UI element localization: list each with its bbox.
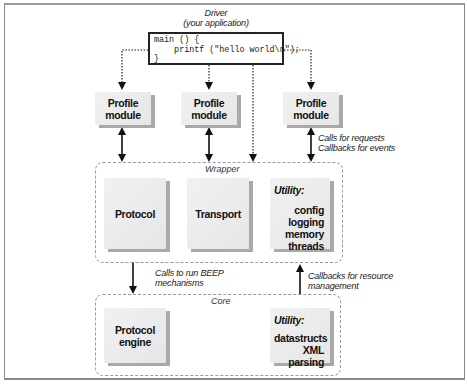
profile-module-1: Profile module [95, 92, 151, 125]
utility-title: Utility: [274, 184, 324, 196]
driver-title-line1: Driver [156, 8, 276, 18]
profile-module-2: Profile module [181, 92, 237, 125]
utility-item: threads [274, 240, 324, 252]
core-label: Core [211, 296, 231, 306]
profile-module-3: Profile module [283, 92, 339, 125]
utility-item: logging [274, 216, 324, 228]
annotation-requests-events: Calls for requests Callbacks for events [318, 133, 395, 153]
transport-label: Transport [195, 208, 241, 220]
core-utility-block: Utility: datastructs XML parsing [270, 308, 330, 363]
driver-code-box: main () { printf ("hello world\n"); } [148, 32, 284, 65]
protocol-engine-block: Protocol engine [104, 308, 166, 363]
utility-title: Utility: [274, 314, 324, 326]
profile-module-label: Profile module [105, 97, 141, 121]
utility-item: config [274, 204, 324, 216]
driver-title: Driver (your application) [156, 8, 276, 28]
annotation-resource-mgmt: Callbacks for resource management [308, 271, 393, 291]
protocol-label: Protocol [115, 208, 155, 220]
annotation-run-beep: Calls to run BEEP mechanisms [155, 268, 224, 288]
wrapper-label: Wrapper [205, 164, 240, 174]
transport-block: Transport [187, 178, 249, 249]
utility-item: memory [274, 228, 324, 240]
driver-title-line2: (your application) [156, 18, 276, 28]
profile-module-label: Profile module [191, 97, 227, 121]
protocol-block: Protocol [104, 178, 166, 249]
profile-module-label: Profile module [293, 97, 329, 121]
utility-item: XML parsing [274, 344, 324, 368]
protocol-engine-label: Protocol engine [115, 324, 155, 348]
utility-item: datastructs [274, 332, 324, 344]
wrapper-utility-block: Utility: config logging memory threads [270, 178, 330, 249]
